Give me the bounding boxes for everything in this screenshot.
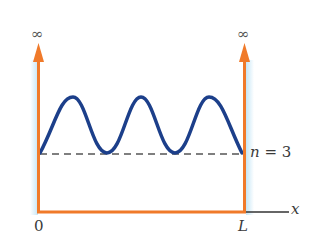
left-infinity-label: ∞: [31, 27, 44, 42]
origin-label: 0: [34, 219, 44, 234]
square-well-diagram: [0, 0, 314, 240]
right-wall-glow: [246, 60, 254, 215]
well-width-label: L: [238, 219, 248, 234]
right-infinity-label: ∞: [237, 27, 250, 42]
x-axis-label: x: [291, 202, 299, 217]
probability-density-curve: [40, 97, 242, 153]
quantum-number-label: n = 3: [250, 145, 291, 160]
right-arrowhead-icon: [239, 43, 250, 62]
n-value: = 3: [264, 143, 291, 161]
left-arrowhead-icon: [33, 43, 44, 62]
n-symbol: n: [250, 143, 260, 161]
left-wall-glow: [30, 60, 38, 215]
